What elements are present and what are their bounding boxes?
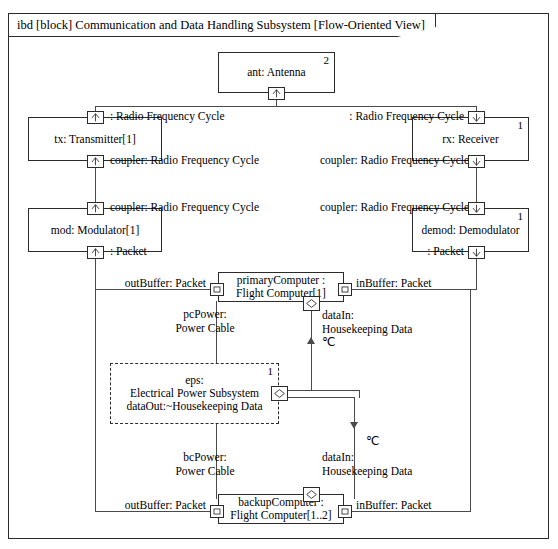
- bc-power-line1: bcPower:: [150, 451, 260, 465]
- eps-label-line1: eps:: [185, 374, 204, 387]
- arrowhead-pc-data-in: [307, 337, 315, 344]
- receiver-multiplicity: 1: [518, 120, 524, 131]
- receiver-label: rx: Receiver: [442, 133, 499, 146]
- full-port-icon-bc-outbuffer[interactable]: [210, 505, 224, 518]
- pc-data-line2: Housekeeping Data: [322, 323, 412, 337]
- connector-right-bus: [470, 289, 471, 512]
- connector-label-pc-datain: dataIn: Housekeeping Data ℃: [322, 309, 412, 350]
- port-label-rx-bottom: coupler: Radio Frequency Cycle: [320, 154, 464, 168]
- transmitter-label: tx: Transmitter[1]: [54, 133, 135, 146]
- port-label-pc-outbuffer: outBuffer: Packet: [112, 277, 206, 291]
- proxy-port-icon-antenna[interactable]: [268, 87, 285, 100]
- proxy-port-icon-mod-bottom[interactable]: [87, 246, 104, 259]
- pc-data-unit: ℃: [322, 336, 412, 350]
- connector-eps-data-bottom: [288, 397, 354, 398]
- flow-port-icon-eps-dataout[interactable]: [271, 386, 288, 401]
- full-port-icon-bc-inbuffer[interactable]: [338, 505, 352, 518]
- eps-multiplicity: 1: [268, 366, 274, 377]
- proxy-port-icon-rx-top[interactable]: [468, 111, 485, 124]
- part-primary-computer[interactable]: primaryComputer : Flight Computer[1]: [218, 272, 344, 302]
- part-eps[interactable]: 1 eps: Electrical Power Subsystem dataOu…: [110, 363, 279, 424]
- full-port-icon-pc-inbuffer[interactable]: [338, 283, 352, 296]
- port-label-tx-bottom: coupler: Radio Frequency Cycle: [110, 154, 259, 168]
- diagram-canvas: ibd [block] Communication and Data Handl…: [0, 0, 558, 549]
- pc-power-line1: pcPower:: [150, 308, 260, 322]
- eps-label-line2: Electrical Power Subsystem: [130, 387, 259, 400]
- flow-port-icon-pc-datain[interactable]: [303, 296, 320, 311]
- backup-computer-label-line2: Flight Computer[1..2]: [230, 509, 331, 522]
- proxy-port-icon-tx-bottom[interactable]: [87, 155, 104, 168]
- proxy-port-icon-demod-top[interactable]: [468, 202, 485, 215]
- port-label-pc-inbuffer: inBuffer: Packet: [356, 277, 431, 291]
- bc-data-line2: Housekeeping Data: [322, 465, 412, 479]
- proxy-port-icon-mod-top[interactable]: [87, 202, 104, 215]
- port-label-bc-inbuffer: inBuffer: Packet: [356, 499, 431, 513]
- proxy-port-icon-tx-top[interactable]: [87, 111, 104, 124]
- full-port-icon-pc-outbuffer[interactable]: [210, 283, 224, 296]
- arrowhead-bc-data-in: [350, 422, 358, 429]
- demodulator-label: demod: Demodulator: [421, 224, 519, 237]
- antenna-multiplicity: 2: [324, 55, 330, 66]
- antenna-label: ant: Antenna: [247, 66, 305, 79]
- connector-eps-data-join: [359, 390, 360, 398]
- port-label-rx-top: : Radio Frequency Cycle: [348, 110, 464, 124]
- connector-eps-to-pc-data: [311, 311, 312, 390]
- bc-data-line1: dataIn:: [322, 451, 412, 465]
- modulator-label: mod: Modulator[1]: [51, 224, 139, 237]
- bc-power-line2: Power Cable: [150, 465, 260, 479]
- port-label-demod-top: coupler: Radio Frequency Cycle: [320, 201, 464, 215]
- connector-antenna-bus: [95, 106, 477, 107]
- connector-label-bc-power: bcPower: Power Cable: [150, 451, 260, 478]
- diagram-header-tab: ibd [block] Communication and Data Handl…: [8, 13, 436, 37]
- port-label-mod-bottom: : Packet: [110, 245, 147, 259]
- pc-power-line2: Power Cable: [150, 322, 260, 336]
- flow-port-icon-bc-datain[interactable]: [303, 487, 320, 502]
- connector-left-bus: [95, 289, 96, 512]
- unit-label-bc-data: ℃: [366, 435, 379, 449]
- port-label-bc-outbuffer: outBuffer: Packet: [112, 499, 206, 513]
- pc-data-line1: dataIn:: [322, 309, 412, 323]
- port-label-mod-top: coupler: Radio Frequency Cycle: [110, 201, 259, 215]
- connector-eps-to-bc-data: [354, 397, 355, 499]
- primary-computer-label-line1: primaryComputer :: [237, 274, 325, 287]
- eps-label-line3: dataOut:~Housekeeping Data: [126, 400, 262, 413]
- demodulator-multiplicity: 1: [518, 211, 524, 222]
- port-label-demod-bottom: : Packet: [380, 245, 464, 259]
- diagram-header-label: ibd [block] Communication and Data Handl…: [17, 18, 425, 33]
- proxy-port-icon-rx-bottom[interactable]: [468, 155, 485, 168]
- connector-eps-data-top: [288, 390, 360, 391]
- connector-label-pc-power: pcPower: Power Cable: [150, 308, 260, 335]
- connector-label-bc-datain: dataIn: Housekeeping Data: [322, 451, 412, 478]
- proxy-port-icon-demod-bottom[interactable]: [468, 246, 485, 259]
- part-backup-computer[interactable]: backupComputer : Flight Computer[1..2]: [218, 494, 344, 524]
- port-label-tx-top: : Radio Frequency Cycle: [110, 110, 225, 124]
